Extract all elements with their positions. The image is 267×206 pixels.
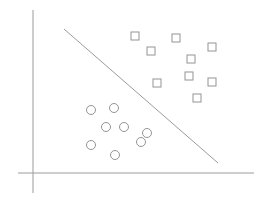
square-marker-2 xyxy=(172,34,180,42)
square-marker-3 xyxy=(208,43,216,51)
square-marker-4 xyxy=(147,47,155,55)
square-marker-5 xyxy=(187,55,195,63)
square-marker-8 xyxy=(208,78,216,86)
scatter-diagram xyxy=(0,0,267,206)
square-marker-7 xyxy=(153,79,161,87)
circle-marker-4 xyxy=(120,123,129,132)
square-marker-1 xyxy=(131,32,139,40)
circle-marker-2 xyxy=(110,104,119,113)
circle-marker-8 xyxy=(111,151,120,160)
circle-marker-3 xyxy=(102,123,111,132)
circle-marker-7 xyxy=(137,138,146,147)
circle-marker-6 xyxy=(87,141,96,150)
square-marker-6 xyxy=(185,72,193,80)
plot-canvas xyxy=(0,0,267,206)
circle-marker-5 xyxy=(143,129,152,138)
square-marker-9 xyxy=(193,94,201,102)
circle-marker-1 xyxy=(87,106,96,115)
